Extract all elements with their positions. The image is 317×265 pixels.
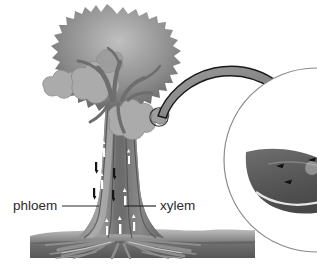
phloem-label: phloem bbox=[13, 198, 57, 213]
tree-canopy bbox=[43, 4, 181, 140]
magnified-leaf-circle bbox=[224, 68, 317, 252]
xylem-label: xylem bbox=[160, 198, 195, 213]
tree-vascular-transport-diagram: phloem xylem bbox=[0, 0, 317, 265]
phloem-label-group: phloem bbox=[13, 198, 99, 213]
